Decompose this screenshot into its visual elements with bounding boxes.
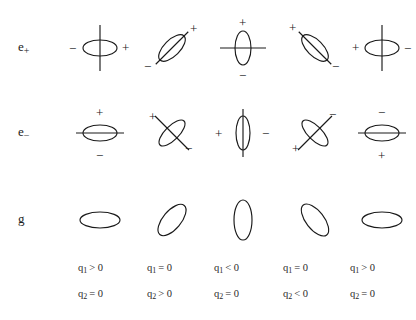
column-1-q2-label: q2= 0	[78, 288, 103, 301]
q2-relation: = 0	[361, 288, 375, 299]
q2-relation: > 0	[158, 288, 172, 299]
q2-subscript: 2	[288, 292, 292, 301]
e-plus-col-5: +−	[345, 11, 416, 85]
row-label-e-minus: e−	[18, 124, 29, 141]
row-label-subscript: −	[24, 130, 30, 141]
g-col-2	[135, 183, 209, 257]
row-label-g: g	[18, 211, 25, 227]
q1-relation: > 0	[361, 262, 375, 273]
e-plus-col-2-sign-0: +	[190, 22, 197, 35]
e-plus-col-3-sign-1: −	[239, 69, 246, 82]
q2-subscript: 2	[219, 292, 223, 301]
q2-relation: = 0	[89, 288, 103, 299]
e-plus-col-4-axis-line	[299, 32, 332, 65]
e-plus-col-2: +−	[135, 11, 209, 85]
q1-subscript: 1	[219, 266, 223, 275]
q2-subscript: 2	[83, 292, 87, 301]
e-plus-col-5-sign-1: −	[404, 42, 411, 55]
column-3-q1-label: q1< 0	[214, 262, 239, 275]
column-5-q1-label: q1> 0	[350, 262, 375, 275]
e-minus-col-2-sign-0: +	[149, 110, 156, 123]
g-col-4	[278, 183, 352, 257]
e-plus-col-1-sign-0: −	[69, 42, 76, 55]
g-col-1	[63, 183, 137, 257]
e-minus-col-4-sign-1: +	[292, 142, 299, 155]
e-minus-col-3: +−	[206, 96, 280, 170]
g-col-5	[345, 183, 416, 257]
e-plus-col-2-axis-line	[156, 32, 189, 65]
column-1-q1-label: q1> 0	[78, 262, 103, 275]
e-plus-col-4-sign-0: +	[289, 21, 296, 34]
e-minus-col-4: −+	[278, 96, 352, 170]
e-minus-col-1: +−	[63, 96, 137, 170]
g-col-3	[206, 183, 280, 257]
g-col-5-ellipse	[362, 212, 402, 228]
e-plus-col-1-sign-1: +	[122, 41, 129, 54]
q2-subscript: 2	[355, 292, 359, 301]
q1-relation: = 0	[158, 262, 172, 273]
e-minus-col-4-sign-0: −	[329, 108, 336, 121]
e-minus-col-5-sign-0: −	[378, 106, 385, 119]
e-plus-col-1: −+	[63, 11, 137, 85]
q2-subscript: 2	[152, 292, 156, 301]
q1-subscript: 1	[355, 266, 359, 275]
q2-relation: < 0	[294, 288, 308, 299]
e-plus-col-5-sign-0: +	[352, 41, 359, 54]
column-2-q1-label: q1= 0	[147, 262, 172, 275]
e-plus-col-3: +−	[206, 11, 280, 85]
column-5-q2-label: q2= 0	[350, 288, 375, 301]
e-plus-col-4-sign-1: −	[332, 60, 339, 73]
q1-subscript: 1	[83, 266, 87, 275]
q1-relation: < 0	[225, 262, 239, 273]
q1-relation: > 0	[89, 262, 103, 273]
e-minus-col-5: −+	[345, 96, 416, 170]
row-label-subscript: +	[24, 45, 30, 56]
e-minus-col-1-sign-1: −	[96, 149, 103, 162]
e-minus-col-2-sign-1: −	[185, 142, 192, 155]
e-minus-col-2: +−	[135, 96, 209, 170]
g-col-4-ellipse	[296, 199, 334, 240]
g-col-1-ellipse	[80, 212, 120, 228]
column-2-q2-label: q2> 0	[147, 288, 172, 301]
e-minus-col-3-sign-1: −	[262, 127, 269, 140]
g-col-3-ellipse	[234, 200, 252, 240]
e-plus-col-2-sign-1: −	[144, 60, 151, 73]
g-col-2-ellipse	[153, 200, 191, 241]
column-4-q1-label: q1= 0	[283, 262, 308, 275]
e-minus-col-3-sign-0: +	[215, 127, 222, 140]
column-4-q2-label: q2< 0	[283, 288, 308, 301]
polarization-figure: e+−++−+−+−+−e−+−+−+−−+−+gq1> 0q2= 0q1= 0…	[0, 0, 416, 320]
row-label-base: g	[18, 211, 25, 226]
e-plus-col-4: +−	[278, 11, 352, 85]
column-3-q2-label: q2= 0	[214, 288, 239, 301]
e-minus-col-1-sign-0: +	[96, 106, 103, 119]
q1-subscript: 1	[152, 266, 156, 275]
row-label-e-plus: e+	[18, 39, 29, 56]
q1-subscript: 1	[288, 266, 292, 275]
q1-relation: = 0	[294, 262, 308, 273]
e-plus-col-3-sign-0: +	[239, 16, 246, 29]
q2-relation: = 0	[225, 288, 239, 299]
e-minus-col-5-sign-1: +	[378, 149, 385, 162]
